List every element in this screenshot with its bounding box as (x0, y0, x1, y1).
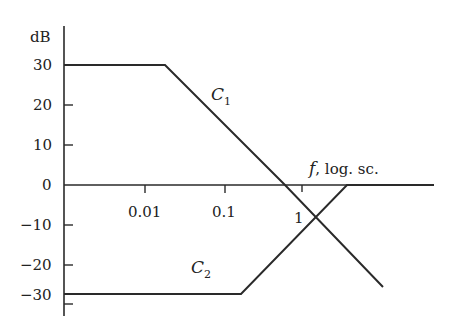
y-tick-label: 0 (42, 176, 52, 194)
curve-c2-label: C2 (191, 257, 211, 281)
y-tick-label: −30 (20, 286, 52, 304)
curve-c2 (64, 185, 434, 294)
y-tick-label: −20 (20, 256, 52, 274)
x-axis-label: f, log. sc. (307, 158, 379, 178)
x-tick-label: 0.01 (128, 203, 161, 221)
y-ticks (64, 105, 73, 304)
y-tick-label: 10 (33, 136, 52, 154)
y-tick-label: 30 (33, 56, 52, 74)
y-tick-label: −10 (20, 216, 52, 234)
y-axis-label: dB (30, 28, 51, 46)
x-tick-label: 0.1 (212, 203, 236, 221)
y-tick-label: 20 (33, 96, 52, 114)
curve-c1-label: C1 (211, 84, 231, 108)
bode-chart: dB 30 20 10 0 −10 −20 −30 0.01 0.1 1 f, … (0, 0, 453, 330)
x-ticks (145, 185, 302, 193)
x-tick-label: 1 (294, 209, 304, 227)
